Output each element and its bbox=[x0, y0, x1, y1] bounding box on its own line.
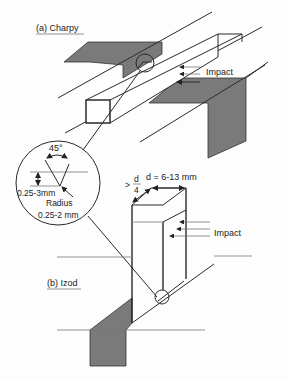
izod-title: (b) Izod bbox=[47, 278, 78, 288]
izod-depth-denominator: 4 bbox=[134, 185, 139, 195]
notch-detail: 45° 0.25-3mm Radius 0.25-2 mm bbox=[16, 141, 100, 225]
izod-impact-label: Impact bbox=[214, 228, 242, 238]
izod-depth-prefix: > bbox=[125, 180, 130, 190]
charpy-impact-label: Impact bbox=[206, 67, 234, 77]
izod-specimen bbox=[57, 188, 252, 323]
izod-anvil bbox=[90, 298, 132, 366]
izod-depth-numerator: d bbox=[134, 174, 139, 184]
izod-panel: d = 6-13 mm > d 4 Impact (b) Izod bbox=[47, 172, 252, 366]
notch-angle: 45° bbox=[49, 143, 63, 153]
izod-width-dimension: d = 6-13 mm bbox=[146, 172, 197, 182]
notch-radius-value: 0.25-2 mm bbox=[38, 210, 79, 220]
impact-test-diagram: Impact (a) Charpy 45° 0.25-3mm Radius 0.… bbox=[0, 0, 289, 380]
charpy-title: (a) Charpy bbox=[36, 23, 79, 33]
charpy-panel: Impact (a) Charpy bbox=[36, 12, 268, 158]
notch-radius-label: Radius bbox=[46, 198, 72, 208]
izod-impact-arrows bbox=[170, 222, 210, 236]
notch-depth: 0.25-3mm bbox=[17, 188, 55, 198]
